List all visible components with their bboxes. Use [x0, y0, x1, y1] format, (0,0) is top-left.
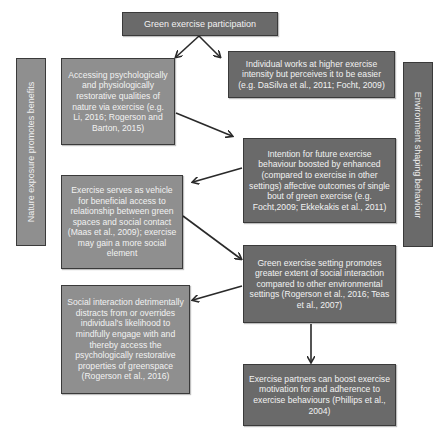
- arrow-vehicle-to-setting: [183, 216, 241, 259]
- node-individual-works-higher-intensity: Individual works at higher exercise inte…: [228, 51, 395, 98]
- node-label: Green exercise participation: [144, 19, 256, 30]
- node-exercise-partners: Exercise partners can boost exercise mot…: [243, 364, 396, 426]
- node-label: Individual works at higher exercise inte…: [234, 59, 389, 91]
- side-label-environment-shaping: Environment shaping behaviour: [403, 62, 433, 247]
- node-accessing-restorative-qualities: Accessing psychologically and physiologi…: [61, 58, 175, 145]
- node-label: Green exercise setting promotes greater …: [249, 258, 390, 311]
- arrow-top-to-individual: [199, 36, 220, 57]
- node-green-exercise-participation: Green exercise participation: [122, 12, 278, 36]
- node-label: Social interaction detrimentally distrac…: [67, 297, 184, 382]
- node-social-interaction-distracts: Social interaction detrimentally distrac…: [61, 285, 190, 394]
- node-label: Exercise serves as vehicle for beneficia…: [67, 185, 177, 259]
- node-exercise-serves-as-vehicle: Exercise serves as vehicle for beneficia…: [61, 175, 183, 269]
- arrow-intention-to-vehicle: [193, 168, 242, 182]
- node-label: Accessing psychologically and physiologi…: [67, 70, 169, 134]
- node-label: Exercise partners can boost exercise mot…: [249, 374, 390, 416]
- side-label-text: Nature exposure promotes benefits: [26, 82, 36, 223]
- arrow-top-to-accessing: [176, 36, 199, 57]
- node-label: Intention for future exercise behaviour …: [249, 149, 390, 213]
- side-label-text: Environment shaping behaviour: [413, 91, 423, 218]
- arrow-setting-to-social: [193, 286, 242, 300]
- node-intention-future-exercise: Intention for future exercise behaviour …: [243, 138, 396, 223]
- node-green-exercise-setting-social: Green exercise setting promotes greater …: [243, 245, 396, 323]
- side-label-nature-exposure: Nature exposure promotes benefits: [16, 58, 46, 246]
- arrow-accessing-to-intention: [176, 113, 232, 136]
